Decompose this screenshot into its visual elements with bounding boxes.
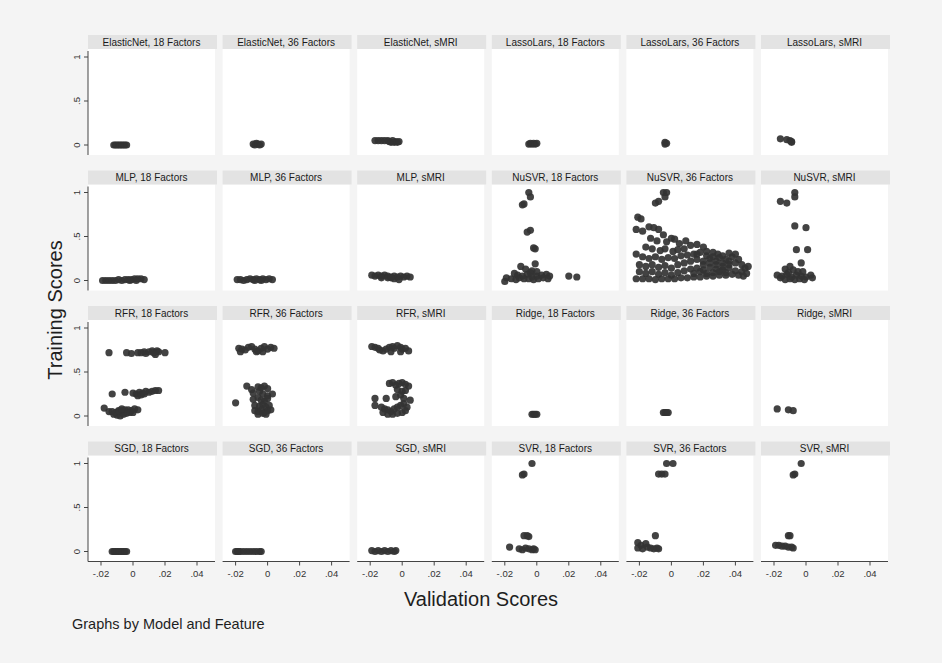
scatter-panel: SGD, 18 Factors0.51-.020.02.04	[71, 442, 217, 579]
data-point	[774, 405, 781, 412]
data-point	[790, 407, 797, 414]
y-tick-label: 1	[71, 325, 82, 330]
y-tick-label: 0	[71, 142, 82, 147]
data-point	[652, 199, 659, 206]
panel-title: ElasticNet, sMRI	[384, 37, 458, 48]
data-point	[395, 276, 402, 283]
plot-area	[357, 320, 484, 426]
data-point	[387, 348, 394, 355]
data-point	[669, 460, 676, 467]
data-point	[713, 261, 720, 268]
x-tick-label: 0	[265, 568, 270, 579]
scatter-panel: Ridge, 36 Factors	[626, 306, 755, 426]
data-point	[709, 269, 716, 276]
scatter-panel: SVR, sMRI-.020.02.04	[761, 442, 890, 579]
x-tick-label: .02	[697, 568, 710, 579]
data-point	[729, 271, 736, 278]
data-point	[636, 261, 643, 268]
data-point	[633, 226, 640, 233]
panel-title: MLP, 18 Factors	[115, 172, 187, 183]
data-point	[799, 268, 806, 275]
y-tick-label: 1	[71, 54, 82, 59]
data-point	[790, 544, 797, 551]
panel-grid: ElasticNet, 18 Factors0.51ElasticNet, 36…	[71, 35, 890, 579]
data-point	[677, 274, 684, 281]
scatter-panel: RFR, 36 Factors	[223, 306, 352, 426]
plot-area	[223, 320, 350, 426]
plot-area	[626, 320, 753, 426]
y-tick-label: 0	[71, 278, 82, 283]
data-point	[528, 460, 535, 467]
data-point	[790, 471, 797, 478]
data-point	[684, 274, 691, 281]
data-point	[128, 350, 135, 357]
data-point	[637, 215, 644, 222]
scatter-panel: LassoLars, 18 Factors	[492, 35, 621, 155]
data-point	[501, 278, 508, 285]
x-tick-label: 0	[803, 568, 808, 579]
plot-area	[492, 49, 619, 155]
plot-area	[223, 185, 350, 291]
data-point	[155, 387, 162, 394]
data-point	[642, 263, 649, 270]
data-point	[633, 251, 640, 258]
panel-title: SVR, 18 Factors	[519, 443, 592, 454]
data-point	[653, 237, 660, 244]
data-point	[371, 395, 378, 402]
data-point	[687, 242, 694, 249]
data-point	[123, 548, 130, 555]
data-point	[524, 229, 531, 236]
y-tick-label: 1	[71, 461, 82, 466]
panel-title: MLP, sMRI	[397, 172, 445, 183]
data-point	[152, 351, 159, 358]
panel-title: SVR, sMRI	[800, 443, 849, 454]
panel-title: LassoLars, sMRI	[787, 37, 862, 48]
x-tick-label: .04	[729, 568, 742, 579]
plot-area	[223, 49, 350, 155]
data-point	[133, 277, 140, 284]
panel-title: ElasticNet, 18 Factors	[103, 37, 201, 48]
data-point	[693, 241, 700, 248]
y-tick-label: .5	[71, 233, 82, 241]
plot-area	[88, 49, 215, 155]
data-point	[661, 141, 668, 148]
x-axis-title: Validation Scores	[404, 588, 558, 610]
y-tick-label: 0	[71, 413, 82, 418]
data-point	[652, 276, 659, 283]
y-tick-label: .5	[71, 97, 82, 105]
scatter-panel: LassoLars, sMRI	[761, 35, 890, 155]
small-multiples-scatter-chart: ElasticNet, 18 Factors0.51ElasticNet, 36…	[0, 0, 942, 663]
panel-title: Ridge, 18 Factors	[516, 308, 595, 319]
data-point	[129, 409, 136, 416]
y-tick-label: .5	[71, 368, 82, 376]
x-tick-label: .02	[293, 568, 306, 579]
data-point	[674, 261, 681, 268]
x-tick-label: -.02	[93, 568, 109, 579]
data-point	[661, 262, 668, 269]
data-point	[532, 546, 539, 553]
data-point	[639, 228, 646, 235]
data-point	[395, 138, 402, 145]
data-point	[783, 199, 790, 206]
scatter-panel: NuSVR, 36 Factors	[626, 171, 755, 291]
panel-title: SGD, 36 Factors	[249, 443, 323, 454]
panel-title: NuSVR, 36 Factors	[647, 172, 733, 183]
y-tick-label: .5	[71, 504, 82, 512]
data-point	[237, 348, 244, 355]
data-point	[506, 544, 513, 551]
x-tick-label: .04	[325, 568, 338, 579]
data-point	[544, 275, 551, 282]
data-point	[259, 348, 266, 355]
scatter-panel: NuSVR, sMRI	[761, 171, 890, 291]
data-point	[387, 274, 394, 281]
x-tick-label: -.02	[227, 568, 243, 579]
x-tick-label: .02	[428, 568, 441, 579]
data-point	[777, 135, 784, 142]
data-point	[232, 399, 239, 406]
data-point	[121, 389, 128, 396]
x-tick-label: .04	[863, 568, 876, 579]
x-tick-label: 0	[534, 568, 539, 579]
data-point	[687, 258, 694, 265]
data-point	[251, 277, 258, 284]
x-tick-label: -.02	[631, 568, 647, 579]
